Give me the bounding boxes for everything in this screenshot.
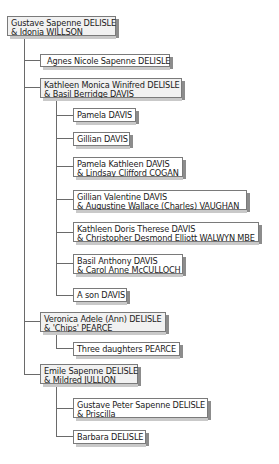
node-shadow — [146, 433, 149, 446]
node-a-son[interactable]: A son DAVIS — [73, 288, 127, 302]
node-shadow — [136, 111, 139, 124]
branch-line-barbara — [56, 436, 73, 437]
branch-line-pamela-kathleen — [56, 166, 73, 167]
trunk-line-kathleen — [56, 97, 57, 295]
node-shadow — [130, 135, 133, 148]
branch-line-gillian — [56, 138, 73, 139]
node-shadow — [76, 274, 183, 277]
node-pamela[interactable]: Pamela DAVIS — [73, 108, 136, 122]
node-line-1: A son DAVIS — [77, 291, 123, 300]
node-line-1: Barbara DELISLE — [77, 433, 142, 442]
branch-line-three-daughters — [56, 348, 73, 349]
node-gillian[interactable]: Gillian DAVIS — [73, 132, 130, 146]
node-root-gustave-idonia[interactable]: Gustave Sapenne DELISLE & Idonia WILLSON — [7, 16, 116, 36]
node-shadow — [76, 444, 146, 447]
node-shadow — [76, 177, 183, 180]
node-shadow — [183, 160, 186, 179]
trunk-line-emile — [56, 384, 57, 437]
node-shadow — [76, 122, 136, 125]
branch-line-veronica — [24, 321, 40, 322]
node-kathleen-doris-christopher[interactable]: Kathleen Doris Therese DAVIS & Christoph… — [73, 222, 259, 242]
node-shadow — [116, 19, 119, 38]
node-shadow — [127, 291, 130, 304]
node-kathleen-basil[interactable]: Kathleen Monica Winifred DELISLE & Basil… — [40, 78, 182, 98]
node-shadow — [76, 302, 127, 305]
node-shadow — [76, 356, 180, 359]
node-shadow — [208, 401, 211, 420]
node-gillian-valentine-augustine[interactable]: Gillian Valentine DAVIS & Augustine Wall… — [73, 190, 247, 210]
branch-line-gustave-peter — [56, 408, 73, 409]
node-basil-anthony-carol[interactable]: Basil Anthony DAVIS & Carol Anne McCULLO… — [73, 254, 183, 274]
node-emile-mildred[interactable]: Emile Sapenne DELISLE & Mildred JULLION — [40, 364, 138, 384]
node-shadow — [170, 57, 173, 69]
node-shadow — [43, 67, 170, 70]
node-shadow — [43, 332, 166, 335]
node-shadow — [138, 367, 141, 386]
node-shadow — [43, 384, 138, 387]
node-shadow — [76, 418, 208, 421]
node-line-1: Gillian DAVIS — [77, 135, 126, 144]
node-shadow — [182, 81, 185, 100]
node-shadow — [76, 242, 259, 245]
branch-line-a-son — [56, 295, 73, 296]
branch-line-pamela — [56, 115, 73, 116]
node-agnes[interactable]: Agnes Nicole Sapenne DELISLE — [40, 54, 170, 67]
branch-line-kathleen — [24, 87, 40, 88]
node-gustave-peter-priscilla[interactable]: Gustave Peter Sapenne DELISLE & Priscill… — [73, 398, 208, 418]
node-shadow — [43, 98, 182, 101]
node-three-daughters[interactable]: Three daughters PEARCE — [73, 342, 180, 356]
node-veronica-chips[interactable]: Veronica Adele (Ann) DELISLE & 'Chips' P… — [40, 312, 166, 332]
node-pamela-kathleen-lindsay[interactable]: Pamela Kathleen DAVIS & Lindsay Clifford… — [73, 157, 183, 177]
node-shadow — [166, 315, 169, 334]
branch-line-agnes — [24, 60, 40, 61]
node-shadow — [10, 36, 116, 39]
node-shadow — [259, 225, 262, 244]
node-shadow — [180, 345, 183, 358]
branch-line-basil-anthony — [56, 263, 73, 264]
branch-line-gillian-valentine — [56, 199, 73, 200]
node-shadow — [76, 146, 130, 149]
node-line-1: Agnes Nicole Sapenne DELISLE — [47, 57, 166, 66]
branch-line-emile — [24, 374, 40, 375]
node-line-1: Three daughters PEARCE — [77, 345, 176, 354]
branch-line-kathleen-doris — [56, 232, 73, 233]
node-shadow — [247, 193, 250, 212]
node-shadow — [183, 257, 186, 276]
node-barbara[interactable]: Barbara DELISLE — [73, 430, 146, 444]
node-line-1: Pamela DAVIS — [77, 111, 132, 120]
node-shadow — [76, 210, 247, 213]
